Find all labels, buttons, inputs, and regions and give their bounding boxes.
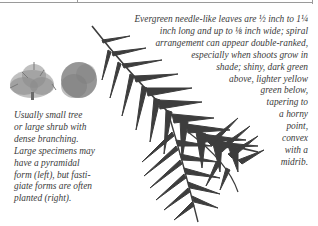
text-line: dense branching. bbox=[14, 134, 95, 146]
text-line: midrib. bbox=[134, 157, 308, 169]
text-line: above, lighter yellow bbox=[134, 74, 308, 86]
text-line: a horny bbox=[134, 109, 308, 121]
text-line: with a bbox=[134, 145, 308, 157]
pyramidal-shrub-icon bbox=[10, 62, 56, 100]
text-line: tapering to bbox=[134, 97, 308, 109]
text-line: Large specimens may bbox=[14, 146, 95, 158]
text-line: giate forms are often bbox=[14, 181, 95, 193]
text-line: point, bbox=[134, 121, 308, 133]
text-line: green below, bbox=[134, 85, 308, 97]
text-line: especially when shoots grow in bbox=[134, 50, 308, 62]
shrub-illustrations bbox=[4, 56, 100, 102]
text-line: shade; shiny, dark green bbox=[134, 62, 308, 74]
text-line: planted (right). bbox=[14, 193, 95, 205]
text-line: Evergreen needle-like leaves are ½ inch … bbox=[134, 14, 308, 26]
border-tick bbox=[77, 0, 78, 3]
text-line: Usually small tree bbox=[14, 110, 95, 122]
text-line: arrangement can appear double-ranked, bbox=[134, 38, 308, 50]
text-line: form (left), but fasti- bbox=[14, 170, 95, 182]
text-line: or large shrub with bbox=[14, 122, 95, 134]
text-line: convex bbox=[134, 133, 308, 145]
border-line bbox=[0, 2, 313, 3]
top-border bbox=[0, 0, 318, 4]
border-tick bbox=[312, 0, 313, 4]
text-line: have a pyramidal bbox=[14, 158, 95, 170]
form-description: Usually small tree or large shrub with d… bbox=[14, 110, 95, 205]
text-line: inch long and up to ⅛ inch wide; spiral bbox=[134, 26, 308, 38]
leaf-description: Evergreen needle-like leaves are ½ inch … bbox=[134, 14, 308, 169]
